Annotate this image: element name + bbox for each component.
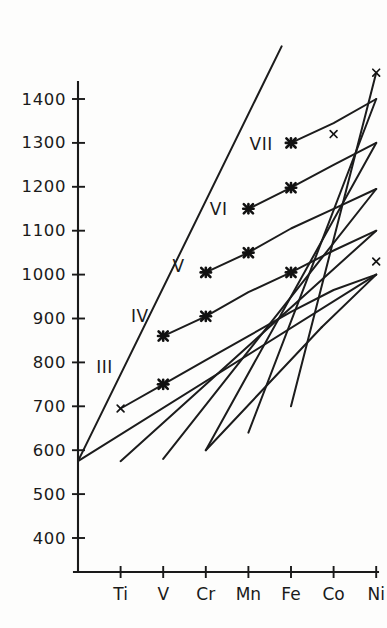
x-tick-label: Ni xyxy=(367,584,384,604)
series-label-VII: VII xyxy=(250,134,273,154)
closing-segment xyxy=(322,275,377,328)
chart-canvas: 40050060070080090010001100120013001400 T… xyxy=(0,0,387,628)
envelope-line xyxy=(121,231,377,461)
series-line-V xyxy=(206,189,376,272)
y-tick-label: 500 xyxy=(33,485,66,504)
y-tick-label-group: 40050060070080090010001100120013001400 xyxy=(22,90,66,548)
y-tick-label: 800 xyxy=(33,353,66,372)
y-tick-label: 600 xyxy=(33,441,66,460)
data-marker-group xyxy=(117,138,296,412)
x-tick-label: Mn xyxy=(236,584,261,604)
y-tick-label: 1100 xyxy=(22,221,66,240)
x-tick-label: V xyxy=(157,584,169,604)
x-tick-label: Cr xyxy=(196,584,215,604)
chart-figure: 40050060070080090010001100120013001400 T… xyxy=(0,0,387,628)
series-label-III: III xyxy=(96,357,113,377)
x-tick-label: Co xyxy=(322,584,344,604)
y-tick-label: 900 xyxy=(33,309,66,328)
series-label-VI: VI xyxy=(210,199,228,219)
series-label-IV: IV xyxy=(131,306,149,326)
series-line-IV xyxy=(163,231,376,336)
y-tick-label: 700 xyxy=(33,397,66,416)
y-tick-label: 1300 xyxy=(22,133,66,152)
x-tick-label-group: TiVCrMnFeCoNi xyxy=(112,584,385,604)
envelope-line-group xyxy=(78,46,376,461)
y-tick-label: 1400 xyxy=(22,90,66,109)
y-tick-label: 1000 xyxy=(22,265,66,284)
x-tick-label: Fe xyxy=(281,584,300,604)
y-tick-label: 400 xyxy=(33,529,66,548)
x-tick-label: Ti xyxy=(112,584,128,604)
y-tick-label: 1200 xyxy=(22,177,66,196)
series-label-V: V xyxy=(172,256,184,276)
